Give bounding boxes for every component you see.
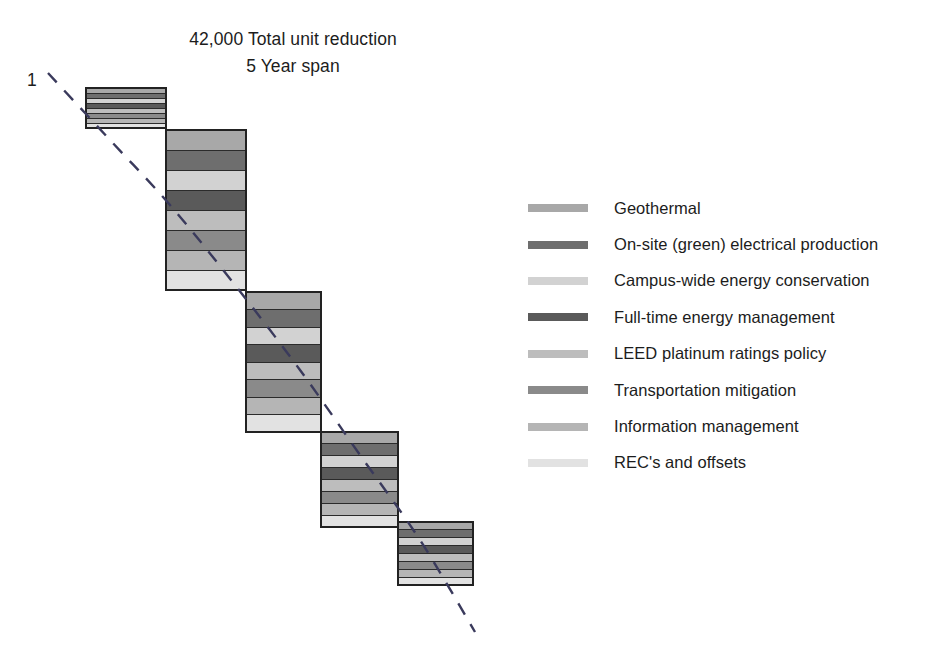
bar-segment	[321, 503, 398, 515]
bar-segment	[321, 456, 398, 468]
chart-legend: GeothermalOn-site (green) electrical pro…	[528, 190, 928, 481]
legend-swatch-icon	[528, 204, 588, 212]
legend-item[interactable]: Information management	[528, 408, 928, 444]
bar-segment	[166, 190, 246, 210]
legend-item[interactable]: LEED platinum ratings policy	[528, 336, 928, 372]
legend-item-label: LEED platinum ratings policy	[614, 344, 826, 363]
bar-segment	[398, 538, 473, 546]
legend-item[interactable]: REC's and offsets	[528, 445, 928, 481]
bar-segment	[321, 515, 398, 527]
stacked-bar	[166, 130, 246, 290]
legend-swatch-icon	[528, 386, 588, 394]
bar-segment	[86, 118, 166, 123]
bar-segment	[166, 230, 246, 250]
bar-segment	[398, 577, 473, 585]
bar-segment	[86, 98, 166, 103]
stacked-bar	[86, 88, 166, 128]
bar-segment	[246, 292, 321, 310]
bar-segment	[166, 210, 246, 230]
bar-segment	[246, 380, 321, 398]
legend-swatch-icon	[528, 423, 588, 431]
bar-segment	[166, 170, 246, 190]
legend-swatch-icon	[528, 277, 588, 285]
bar-segment	[166, 150, 246, 170]
bar-segment	[166, 270, 246, 290]
bar-segment	[86, 103, 166, 108]
stacked-bar	[398, 522, 473, 585]
bar-segment	[246, 327, 321, 345]
legend-item-label: Geothermal	[614, 199, 701, 218]
bar-segment	[166, 130, 246, 150]
stacked-bars-group	[86, 88, 473, 585]
legend-item-label: Information management	[614, 417, 799, 436]
bar-segment	[398, 569, 473, 577]
bar-segment	[321, 468, 398, 480]
legend-item-label: Transportation mitigation	[614, 381, 796, 400]
bar-segment	[86, 108, 166, 113]
legend-swatch-icon	[528, 459, 588, 467]
legend-item[interactable]: On-site (green) electrical production	[528, 226, 928, 262]
bar-segment	[398, 546, 473, 554]
legend-item-label: REC's and offsets	[614, 453, 746, 472]
bar-segment	[246, 415, 321, 433]
legend-item[interactable]: Full-time energy management	[528, 299, 928, 335]
bar-segment	[398, 530, 473, 538]
legend-item[interactable]: Geothermal	[528, 190, 928, 226]
bar-segment	[86, 113, 166, 118]
legend-item[interactable]: Campus-wide energy conservation	[528, 263, 928, 299]
legend-swatch-icon	[528, 313, 588, 321]
legend-swatch-icon	[528, 241, 588, 249]
legend-item-label: On-site (green) electrical production	[614, 235, 878, 254]
bar-segment	[86, 93, 166, 98]
bar-segment	[246, 397, 321, 415]
bar-segment	[398, 554, 473, 562]
chart-canvas: 42,000 Total unit reduction 5 Year span …	[0, 0, 942, 665]
bar-segment	[166, 250, 246, 270]
bar-segment	[321, 432, 398, 444]
stacked-bar	[321, 432, 398, 527]
legend-item[interactable]: Transportation mitigation	[528, 372, 928, 408]
legend-item-label: Full-time energy management	[614, 308, 835, 327]
legend-item-label: Campus-wide energy conservation	[614, 271, 870, 290]
bar-segment	[246, 362, 321, 380]
legend-swatch-icon	[528, 350, 588, 358]
bar-segment	[321, 480, 398, 492]
